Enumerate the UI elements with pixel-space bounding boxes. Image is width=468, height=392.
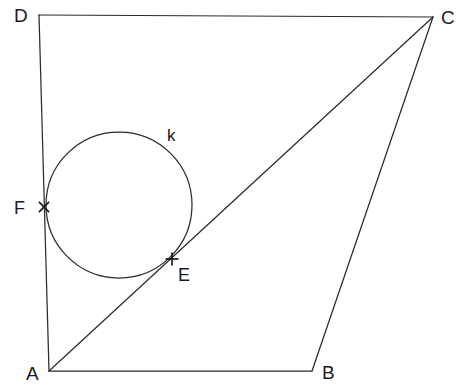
plus-marker [166, 253, 179, 266]
point-label-e: E [178, 265, 190, 285]
diagonal-ac [49, 17, 433, 371]
vertex-label-b: B [322, 362, 335, 383]
edge-dc [39, 15, 433, 17]
vertex-label-a: A [26, 363, 39, 384]
vertex-label-d: D [14, 5, 28, 26]
circle-label-k: k [167, 126, 176, 145]
point-label-f: F [14, 198, 25, 218]
circle-k [46, 132, 192, 278]
geometry-canvas: D C A B E F k [0, 0, 468, 392]
vertex-label-c: C [441, 7, 455, 28]
edge-cb [312, 17, 433, 371]
geometry-figure: D C A B E F k [0, 0, 468, 392]
